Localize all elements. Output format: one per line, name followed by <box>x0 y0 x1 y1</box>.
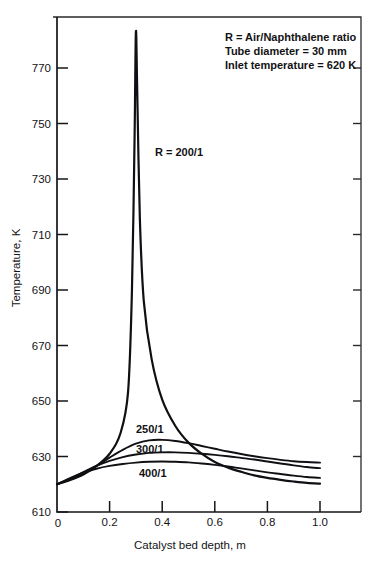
y-tick-label: 630 <box>32 451 51 463</box>
series-label: 300/1 <box>136 443 164 455</box>
y-tick-label: 690 <box>32 284 51 296</box>
annotation-line: R = Air/Naphthalene ratio <box>225 31 357 43</box>
annotation-line: Inlet temperature = 620 K <box>225 59 356 71</box>
y-tick-label: 730 <box>32 173 51 185</box>
series-label: R = 200/1 <box>155 146 203 158</box>
y-tick-label: 710 <box>32 229 51 241</box>
x-tick-label: 0.2 <box>102 516 118 528</box>
y-axis-title: Temperature, K <box>10 228 22 307</box>
series-label: 400/1 <box>139 467 167 479</box>
temperature-vs-bed-depth-chart: 610630650670690710730750770 00.20.40.60.… <box>0 0 381 561</box>
x-axis-title: Catalyst bed depth, m <box>134 539 246 551</box>
annotation-line: Tube diameter = 30 mm <box>225 45 347 57</box>
x-tick-label: 1.0 <box>312 516 328 528</box>
x-tick-label: 0.6 <box>207 516 223 528</box>
y-tick-label: 670 <box>32 340 51 352</box>
x-tick-label: 0.8 <box>259 516 275 528</box>
figure-container: 610630650670690710730750770 00.20.40.60.… <box>0 0 381 561</box>
series-label: 250/1 <box>136 423 164 435</box>
y-tick-label: 650 <box>32 395 51 407</box>
x-tick-label: 0.4 <box>154 516 171 528</box>
y-tick-label: 770 <box>32 62 51 74</box>
y-tick-label: 750 <box>32 118 51 130</box>
annotation-block: R = Air/Naphthalene ratioTube diameter =… <box>225 31 357 71</box>
x-tick-label: 0 <box>55 517 61 529</box>
y-tick-label: 610 <box>32 506 51 518</box>
